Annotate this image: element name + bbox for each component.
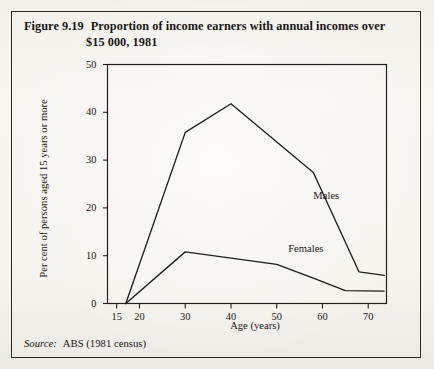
source-value: ABS (1981 census) xyxy=(63,337,146,349)
y-tick-label-0: 0 xyxy=(71,299,97,309)
series-label-males: Males xyxy=(313,190,339,201)
figure-source: Source:ABS (1981 census) xyxy=(24,337,146,349)
x-tick-label-40: 40 xyxy=(217,312,245,322)
plot-frame xyxy=(108,65,387,304)
series-line-males xyxy=(126,104,384,304)
figure-page: Figure 9.19Proportion of income earners … xyxy=(0,0,434,369)
x-tick-label-70: 70 xyxy=(354,312,382,322)
chart-series xyxy=(126,104,384,304)
chart-plot-area: Per cent of persons aged 15 years or mor… xyxy=(0,0,434,369)
y-tick-label-10: 10 xyxy=(71,251,97,261)
y-tick-label-50: 50 xyxy=(71,60,97,70)
y-axis-title: Per cent of persons aged 15 years or mor… xyxy=(38,84,49,294)
x-axis-title: Age (years) xyxy=(95,320,415,331)
x-tick-label-60: 60 xyxy=(308,312,336,322)
x-tick-label-20: 20 xyxy=(126,312,154,322)
y-tick-label-30: 30 xyxy=(71,155,97,165)
chart-axes xyxy=(103,65,387,309)
x-tick-label-50: 50 xyxy=(263,312,291,322)
series-label-females: Females xyxy=(288,243,323,254)
y-tick-label-40: 40 xyxy=(71,107,97,117)
x-tick-label-30: 30 xyxy=(171,312,199,322)
source-key: Source: xyxy=(24,337,57,349)
series-line-females xyxy=(126,252,384,304)
y-tick-label-20: 20 xyxy=(71,203,97,213)
